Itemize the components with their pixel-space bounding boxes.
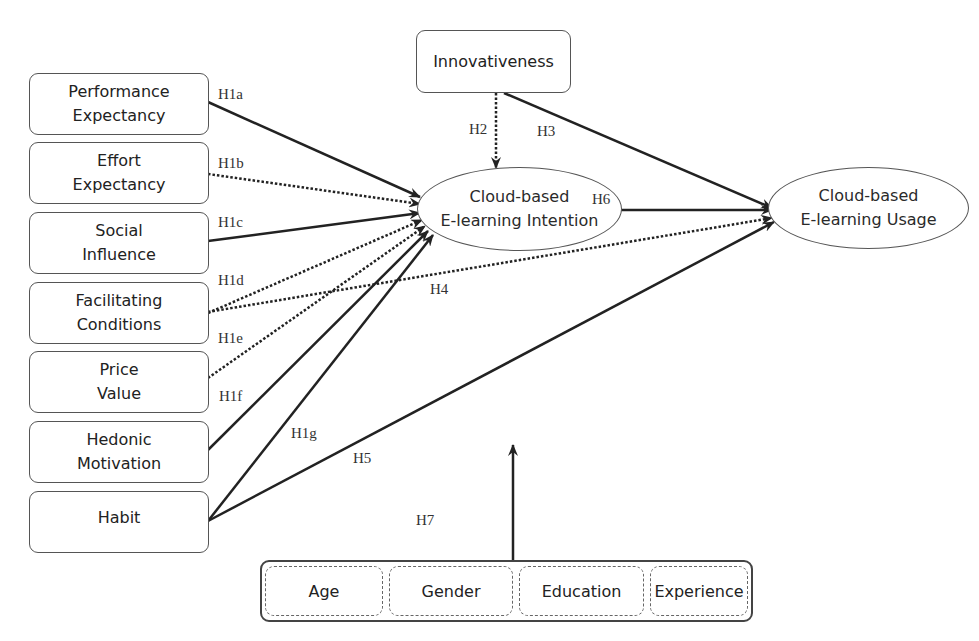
construct-price-value: Price Value bbox=[29, 351, 209, 413]
arrow-h5 bbox=[208, 222, 774, 521]
construct-label: Habit bbox=[98, 506, 141, 530]
construct-intention: Cloud-based E-learning Intention bbox=[417, 167, 622, 251]
construct-label: Innovativeness bbox=[433, 50, 554, 74]
construct-label: Price Value bbox=[97, 358, 141, 406]
construct-usage: Cloud-based E-learning Usage bbox=[768, 167, 969, 249]
construct-effort-expectancy: Effort Expectancy bbox=[29, 142, 209, 204]
construct-label: Effort Expectancy bbox=[73, 149, 166, 197]
construct-label: Cloud-based E-learning Intention bbox=[440, 185, 598, 233]
hypothesis-label-h2: H2 bbox=[469, 121, 487, 138]
hypothesis-label-h1a: H1a bbox=[218, 86, 243, 103]
moderator-label: Experience bbox=[654, 582, 743, 601]
construct-habit: Habit bbox=[29, 491, 209, 553]
hypothesis-label-h1d: H1d bbox=[218, 272, 244, 289]
construct-label: Hedonic Motivation bbox=[77, 428, 161, 476]
hypothesis-label-h5: H5 bbox=[353, 450, 371, 467]
arrow-h1d bbox=[208, 220, 422, 313]
hypothesis-label-h1c: H1c bbox=[218, 214, 243, 231]
hypothesis-label-h1f: H1f bbox=[219, 388, 242, 405]
construct-label: Cloud-based E-learning Usage bbox=[800, 184, 936, 232]
hypothesis-label-h7: H7 bbox=[416, 512, 434, 529]
moderator-label: Age bbox=[309, 582, 340, 601]
hypothesis-label-h3: H3 bbox=[537, 123, 555, 140]
arrow-h1a bbox=[208, 102, 420, 197]
moderator-education: Education bbox=[519, 566, 644, 616]
hypothesis-label-h6: H6 bbox=[592, 191, 610, 208]
construct-label: Social Influence bbox=[82, 219, 156, 267]
construct-hedonic-motivation: Hedonic Motivation bbox=[29, 421, 209, 483]
arrow-h1b bbox=[208, 174, 420, 204]
moderator-label: Gender bbox=[422, 582, 481, 601]
hypothesis-label-h1g: H1g bbox=[291, 425, 317, 442]
arrow-h1e bbox=[208, 226, 425, 378]
hypothesis-label-h1b: H1b bbox=[218, 155, 244, 172]
moderator-gender: Gender bbox=[389, 566, 513, 616]
moderator-age: Age bbox=[265, 566, 383, 616]
construct-facilitating-conditions: Facilitating Conditions bbox=[29, 282, 209, 344]
moderators-group: Age Gender Education Experience bbox=[260, 560, 753, 622]
construct-performance-expectancy: Performance Expectancy bbox=[29, 73, 209, 135]
construct-innovativeness: Innovativeness bbox=[416, 30, 571, 93]
moderator-experience: Experience bbox=[650, 566, 748, 616]
moderator-label: Education bbox=[542, 582, 622, 601]
hypothesis-label-h4: H4 bbox=[430, 281, 448, 298]
construct-social-influence: Social Influence bbox=[29, 212, 209, 274]
construct-label: Facilitating Conditions bbox=[76, 289, 163, 337]
construct-label: Performance Expectancy bbox=[68, 80, 169, 128]
hypothesis-label-h1e: H1e bbox=[218, 330, 243, 347]
